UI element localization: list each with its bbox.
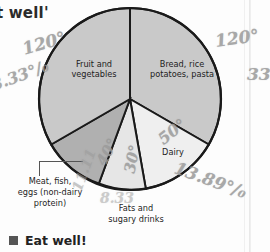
pie-label-dairy: Dairy bbox=[150, 147, 196, 157]
pie-label-bread-line2: potatoes, pasta bbox=[142, 69, 222, 79]
pie-label-fats-line2: sugary drinks bbox=[88, 214, 184, 225]
square-bullet-icon bbox=[9, 236, 18, 245]
leader-line-horizontal bbox=[39, 161, 83, 162]
leader-line-vertical bbox=[39, 161, 40, 176]
pie-label-meat-line3: protein) bbox=[2, 198, 98, 209]
footer-bullet-label: Eat well! bbox=[25, 233, 87, 248]
pie-label-bread-line1: Bread, rice bbox=[142, 59, 222, 69]
annotation-bread-percent: 33 bbox=[247, 64, 270, 84]
pie-label-fruit: Fruit and vegetables bbox=[57, 59, 131, 79]
annotation-fats-percent: 8.33 bbox=[100, 190, 134, 206]
pie-label-fruit-line1: Fruit and bbox=[57, 59, 131, 69]
pie-label-bread: Bread, rice potatoes, pasta bbox=[142, 59, 222, 79]
pie-label-fruit-line2: vegetables bbox=[57, 69, 131, 79]
pie-label-fats: Fats and sugary drinks bbox=[88, 203, 184, 225]
footer-bullet-row: Eat well! bbox=[9, 233, 87, 248]
scanned-page: t well' Fruit and vegetables Bread, rice… bbox=[0, 0, 270, 252]
